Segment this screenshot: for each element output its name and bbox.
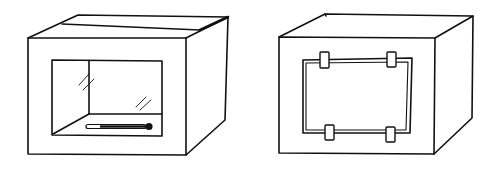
left-box-side xyxy=(186,17,228,155)
right-box xyxy=(279,14,473,154)
panel-inner-frame xyxy=(306,62,408,130)
left-box xyxy=(28,15,228,155)
panel-outer-frame xyxy=(303,58,412,133)
right-box-top xyxy=(279,14,473,38)
illustration xyxy=(0,0,500,169)
tape-top-left-icon xyxy=(320,52,329,68)
left-box-top-flap-edge xyxy=(200,17,228,30)
tape-bottom-left-icon xyxy=(325,125,334,140)
tape-top-right-icon xyxy=(387,52,396,67)
right-box-top-corner xyxy=(325,14,326,16)
thermometer-icon xyxy=(86,123,153,130)
window-inner-diagonal xyxy=(53,114,89,134)
left-box-top-flap-line xyxy=(62,24,200,30)
right-box-side xyxy=(434,16,473,154)
glass-glint-icon xyxy=(79,74,89,85)
tape-bottom-right-icon xyxy=(386,127,395,142)
